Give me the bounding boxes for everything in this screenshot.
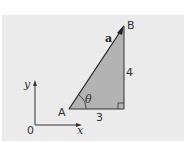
- point-a-label: A: [58, 106, 66, 119]
- side-3-label: 3: [96, 111, 103, 124]
- point-b-label: B: [127, 19, 135, 32]
- origin-label: 0: [27, 124, 34, 137]
- angle-label: θ: [85, 93, 92, 106]
- vector-triangle-diagram: A B a θ 3 4 y x 0: [0, 0, 192, 143]
- vector-label: a: [105, 32, 112, 45]
- y-axis-label: y: [23, 78, 31, 91]
- side-4-label: 4: [126, 66, 133, 79]
- y-arrow-icon: [33, 80, 37, 86]
- x-axis-label: x: [77, 124, 84, 137]
